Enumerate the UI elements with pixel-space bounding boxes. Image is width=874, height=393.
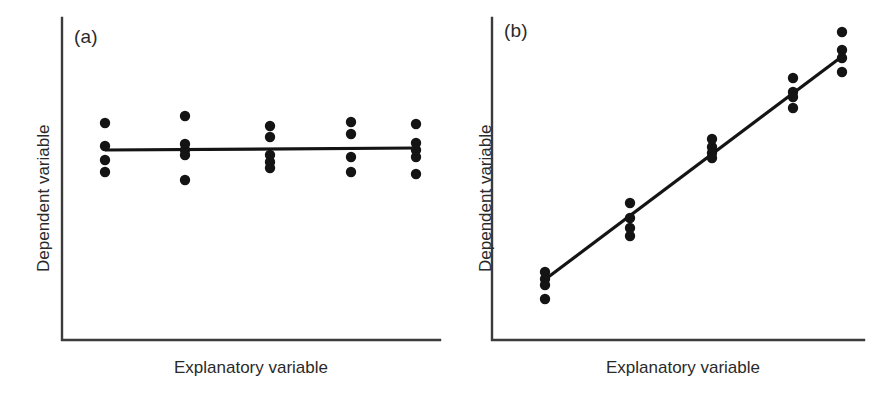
panel-b-tag: (b) [504, 20, 528, 42]
panel-a-plot [0, 0, 452, 393]
panel-a-tag: (a) [74, 26, 98, 48]
panel-a-y-axis-label: Dependent variable [34, 125, 54, 272]
panel-b-data-points [540, 27, 847, 304]
panel-a-fit-line [105, 148, 416, 150]
panel-b-x-axis-label: Explanatory variable [492, 358, 874, 378]
panel-a-x-axis-label: Explanatory variable [62, 358, 440, 378]
panel-a-axes [62, 18, 440, 340]
figure-container: (a) Dependent variable Explanatory varia… [0, 0, 874, 393]
panel-a: (a) Dependent variable Explanatory varia… [0, 0, 452, 393]
panel-b: (b) Dependent variable Explanatory varia… [452, 0, 874, 393]
panel-b-plot [452, 0, 874, 393]
panel-b-y-axis-label: Dependent variable [476, 125, 496, 272]
